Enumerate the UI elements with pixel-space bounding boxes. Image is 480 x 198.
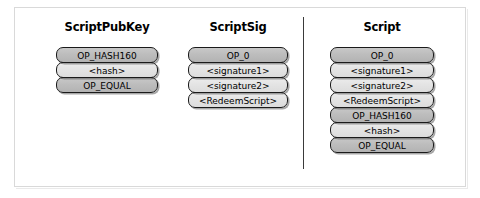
script-item-label: OP_EQUAL [57, 79, 157, 93]
script-item-label: <RedeemScript> [331, 94, 433, 108]
script-item: <RedeemScript> [330, 92, 434, 108]
script-stack-scriptsig: OP_0 <signature1> <signature2> <RedeemSc… [188, 47, 288, 107]
script-item-label: <signature1> [331, 64, 433, 78]
script-item-label: <hash> [57, 64, 157, 78]
script-item-label: <signature1> [189, 64, 287, 78]
script-item: <signature2> [330, 77, 434, 93]
column-title-scriptpubkey: ScriptPubKey [56, 20, 158, 34]
script-item: <signature1> [188, 62, 288, 78]
script-item: OP_0 [188, 47, 288, 63]
script-item: <hash> [56, 62, 158, 78]
script-item: OP_EQUAL [330, 137, 434, 153]
script-item-label: OP_0 [331, 49, 433, 63]
script-item: OP_0 [330, 47, 434, 63]
script-item: <hash> [330, 122, 434, 138]
script-item-label: <hash> [331, 124, 433, 138]
script-stack-script: OP_0 <signature1> <signature2> <RedeemSc… [330, 47, 434, 152]
script-item: <signature2> [188, 77, 288, 93]
script-item: OP_HASH160 [330, 107, 434, 123]
column-title-script: Script [330, 20, 434, 34]
script-item-label: OP_0 [189, 49, 287, 63]
script-item: OP_HASH160 [56, 47, 158, 63]
script-item-label: OP_HASH160 [57, 49, 157, 63]
script-composition-figure: ScriptPubKey OP_HASH160 <hash> OP_EQUAL … [0, 0, 480, 198]
script-item-label: OP_EQUAL [331, 139, 433, 153]
script-stack-scriptpubkey: OP_HASH160 <hash> OP_EQUAL [56, 47, 158, 92]
vertical-divider [303, 17, 304, 169]
script-item: <RedeemScript> [188, 92, 288, 108]
script-item-label: <signature2> [331, 79, 433, 93]
column-title-scriptsig: ScriptSig [188, 20, 288, 34]
script-item: OP_EQUAL [56, 77, 158, 93]
script-item-label: <RedeemScript> [189, 94, 287, 108]
script-item-label: <signature2> [189, 79, 287, 93]
script-item: <signature1> [330, 62, 434, 78]
script-item-label: OP_HASH160 [331, 109, 433, 123]
